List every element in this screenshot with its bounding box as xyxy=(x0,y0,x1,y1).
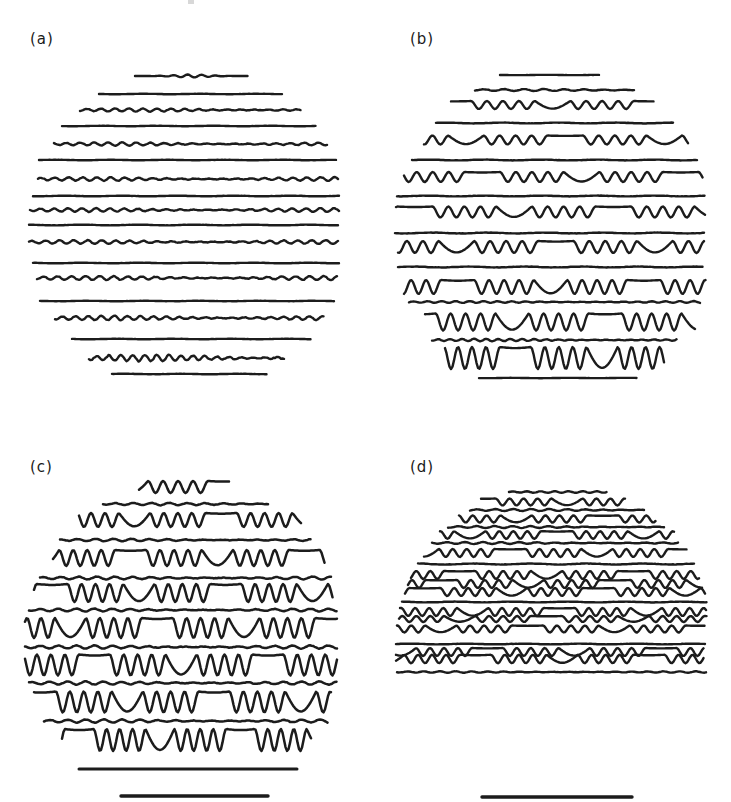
trace-line xyxy=(44,719,328,723)
trace-line xyxy=(80,108,301,111)
trace-line xyxy=(409,301,700,303)
trace-line xyxy=(33,263,339,264)
trace-line xyxy=(29,225,338,226)
trace-line xyxy=(38,177,338,181)
trace-line xyxy=(30,208,339,212)
trace-line xyxy=(399,616,707,622)
trace-line xyxy=(424,549,687,557)
trace-line xyxy=(25,618,337,638)
trace-line xyxy=(34,692,331,713)
trace-line xyxy=(37,276,337,280)
trace-line xyxy=(440,531,674,539)
trace-line xyxy=(397,196,705,197)
trace-line xyxy=(395,232,704,233)
trace-line xyxy=(54,142,327,146)
trace-line xyxy=(79,513,301,527)
trace-line xyxy=(481,499,625,506)
trace-line xyxy=(55,316,324,321)
trace-line xyxy=(33,196,339,197)
trace-line xyxy=(29,240,338,244)
trace-line xyxy=(404,280,706,294)
panel-b xyxy=(395,75,706,378)
trace-line xyxy=(62,729,311,751)
trace-line xyxy=(135,75,248,78)
trace-line xyxy=(60,539,311,542)
trace-line xyxy=(396,644,705,645)
trace-line xyxy=(425,314,695,331)
panel-label-c: (c) xyxy=(30,458,53,476)
panel-c xyxy=(25,481,337,796)
trace-line xyxy=(408,580,702,588)
panel-label-a: (a) xyxy=(30,30,54,48)
trace-line xyxy=(424,136,688,145)
trace-line xyxy=(418,563,694,564)
panel-a xyxy=(29,75,339,375)
trace-line xyxy=(25,645,337,649)
trace-line xyxy=(405,588,705,596)
trace-line xyxy=(470,509,644,511)
trace-line xyxy=(398,241,704,253)
trace-line xyxy=(404,172,703,182)
trace-line xyxy=(397,626,705,633)
trace-line xyxy=(475,89,634,91)
trace-line xyxy=(509,491,607,493)
trace-line xyxy=(34,584,333,602)
trace-line xyxy=(397,671,706,673)
figure: (a) (b) (c) (d) xyxy=(0,0,731,802)
panel-label-b: (b) xyxy=(410,30,434,48)
trace-line xyxy=(411,571,699,579)
trace-line xyxy=(398,266,703,267)
trace-line xyxy=(29,681,337,685)
trace-canvas xyxy=(0,0,731,802)
trace-line xyxy=(40,577,331,580)
stray-mark xyxy=(188,0,194,4)
trace-line xyxy=(459,515,656,522)
trace-line xyxy=(25,655,337,676)
panel-d xyxy=(396,491,707,797)
trace-line xyxy=(402,602,707,603)
trace-line xyxy=(432,542,678,544)
trace-line xyxy=(139,481,229,493)
trace-line xyxy=(89,355,284,362)
trace-line xyxy=(436,123,673,124)
trace-line xyxy=(445,347,664,369)
trace-line xyxy=(451,101,654,109)
trace-line xyxy=(396,207,705,218)
trace-line xyxy=(448,526,664,528)
trace-line xyxy=(412,160,697,161)
trace-line xyxy=(29,609,337,612)
trace-line xyxy=(400,608,706,616)
trace-line xyxy=(103,503,268,506)
panel-label-d: (d) xyxy=(410,458,434,476)
trace-line xyxy=(432,339,677,342)
trace-line xyxy=(396,655,704,663)
trace-line xyxy=(53,550,325,566)
